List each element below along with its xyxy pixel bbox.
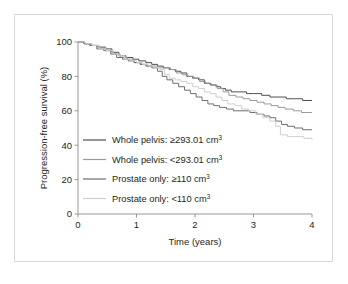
kaplan-meier-chart: 02040608010001234 Whole pelvis: ≥293.01 …	[0, 0, 348, 284]
legend-label-2: Whole pelvis: <293.01 cm3	[112, 154, 223, 165]
y-tick-label: 60	[61, 105, 72, 116]
x-tick-label: 2	[192, 219, 197, 230]
x-tick-label: 0	[75, 219, 80, 230]
legend-superscript-1: 3	[218, 134, 222, 141]
y-tick-label: 0	[67, 208, 72, 219]
figure-container: 02040608010001234 Whole pelvis: ≥293.01 …	[0, 0, 348, 284]
legend-superscript-3: 3	[206, 173, 210, 180]
y-axis-title: Progression-free survival (%)	[38, 67, 49, 189]
legend-label-1: Whole pelvis: ≥293.01 cm3	[112, 134, 222, 145]
legend-superscript-2: 3	[219, 154, 223, 161]
chart-legend: Whole pelvis: ≥293.01 cm3Whole pelvis: <…	[83, 134, 223, 204]
x-tick-label: 3	[251, 219, 256, 230]
x-tick-label: 4	[309, 219, 314, 230]
x-axis-title: Time (years)	[169, 236, 222, 247]
y-tick-label: 80	[61, 71, 72, 82]
y-tick-label: 40	[61, 140, 72, 151]
y-tick-label: 100	[56, 36, 72, 47]
legend-label-4: Prostate only: <110 cm3	[112, 193, 211, 204]
survival-curve-3	[78, 42, 312, 130]
y-tick-label: 20	[61, 174, 72, 185]
survival-curve-4	[78, 42, 312, 140]
legend-superscript-4: 3	[207, 193, 211, 200]
curves-group	[78, 42, 312, 140]
x-tick-label: 1	[134, 219, 139, 230]
legend-label-3: Prostate only: ≥110 cm3	[112, 173, 210, 184]
